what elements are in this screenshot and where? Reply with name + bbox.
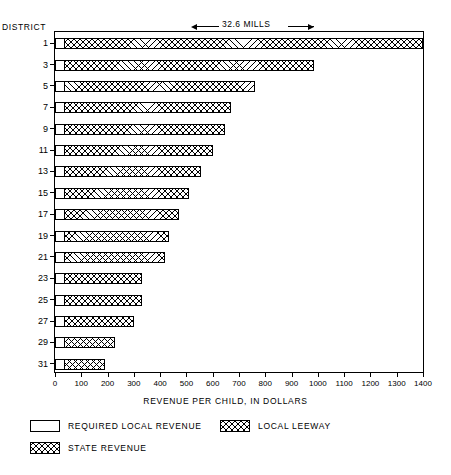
- bar-segment-local-leeway: [64, 360, 104, 369]
- legend-row-2: STATE REVENUE: [30, 442, 430, 464]
- bar-district-17: [55, 209, 179, 220]
- mills-arrow-left-icon: [191, 24, 197, 30]
- bar-segment-required-local-revenue: [56, 189, 64, 198]
- bar-segment-local-leeway: [64, 338, 115, 347]
- y-tick-label-1: 1: [24, 38, 48, 48]
- chart-root: DISTRICT 32.6 MILLS 13579111315171921232…: [0, 0, 451, 475]
- y-tick-mark-13: [50, 171, 54, 172]
- x-tick-mark-100: [81, 373, 82, 377]
- x-tick-mark-600: [213, 373, 214, 377]
- y-tick-mark-31: [50, 363, 54, 364]
- mills-arrow-right-icon: [308, 24, 314, 30]
- bar-segment-required-local-revenue: [56, 39, 64, 48]
- y-axis-title: DISTRICT: [2, 22, 46, 32]
- x-axis-title: REVENUE PER CHILD, IN DOLLARS: [0, 396, 451, 406]
- y-tick-label-19: 19: [24, 231, 48, 241]
- bar-segment-local-leeway: [64, 253, 165, 262]
- bar-segment-required-local-revenue: [56, 61, 64, 70]
- x-tick-mark-1100: [344, 373, 345, 377]
- x-tick-mark-1400: [423, 373, 424, 377]
- bar-district-31: [55, 359, 105, 370]
- y-tick-label-29: 29: [24, 337, 48, 347]
- bar-district-25: [55, 295, 142, 306]
- y-tick-mark-5: [50, 85, 54, 86]
- bar-segment-required-local-revenue: [56, 125, 64, 134]
- bar-segment-local-leeway: [64, 125, 224, 134]
- bar-district-11: [55, 145, 213, 156]
- bar-district-21: [55, 252, 165, 263]
- x-tick-mark-300: [134, 373, 135, 377]
- x-tick-mark-800: [265, 373, 266, 377]
- bar-segment-local-leeway: [64, 39, 422, 48]
- x-tick-mark-900: [292, 373, 293, 377]
- bar-segment-required-local-revenue: [56, 82, 64, 91]
- bar-district-9: [55, 124, 225, 135]
- x-tick-mark-400: [160, 373, 161, 377]
- y-tick-mark-3: [50, 64, 54, 65]
- y-tick-mark-25: [50, 299, 54, 300]
- y-tick-label-21: 21: [24, 252, 48, 262]
- bar-segment-local-leeway: [64, 274, 141, 283]
- legend-swatch-required-local-revenue: [30, 420, 60, 432]
- y-tick-mark-29: [50, 342, 54, 343]
- bar-segment-required-local-revenue: [56, 360, 64, 369]
- y-tick-label-3: 3: [24, 60, 48, 70]
- bar-segment-required-local-revenue: [56, 253, 64, 262]
- bar-segment-local-leeway: [64, 146, 212, 155]
- bar-segment-required-local-revenue: [56, 274, 64, 283]
- x-tick-mark-500: [186, 373, 187, 377]
- x-tick-mark-0: [55, 373, 56, 377]
- y-tick-mark-15: [50, 192, 54, 193]
- legend-swatch-state-revenue: [30, 442, 60, 454]
- y-tick-mark-23: [50, 278, 54, 279]
- y-tick-mark-1: [50, 43, 54, 44]
- legend-swatch-local-leeway: [220, 420, 250, 432]
- bar-district-15: [55, 188, 189, 199]
- bar-district-13: [55, 166, 201, 177]
- bar-segment-local-leeway: [64, 167, 200, 176]
- x-tick-label-1400: 1400: [408, 379, 438, 388]
- y-tick-label-15: 15: [24, 188, 48, 198]
- bar-segment-required-local-revenue: [56, 317, 64, 326]
- bar-segment-required-local-revenue: [56, 232, 64, 241]
- y-tick-label-31: 31: [24, 359, 48, 369]
- legend: REQUIRED LOCAL REVENUE LOCAL LEEWAY STAT…: [30, 420, 430, 464]
- bars-container: [55, 32, 423, 372]
- legend-row-1: REQUIRED LOCAL REVENUE LOCAL LEEWAY: [30, 420, 430, 442]
- y-tick-mark-21: [50, 256, 54, 257]
- bar-segment-local-leeway: [64, 103, 230, 112]
- bar-district-27: [55, 316, 134, 327]
- bar-district-23: [55, 273, 142, 284]
- bar-district-29: [55, 337, 115, 348]
- y-tick-mark-9: [50, 128, 54, 129]
- x-tick-mark-200: [108, 373, 109, 377]
- bar-segment-local-leeway: [64, 82, 254, 91]
- bar-segment-required-local-revenue: [56, 338, 64, 347]
- legend-item-state-revenue: STATE REVENUE: [30, 442, 147, 454]
- bar-segment-local-leeway: [64, 232, 168, 241]
- x-tick-mark-700: [239, 373, 240, 377]
- legend-label-required-local-revenue: REQUIRED LOCAL REVENUE: [68, 421, 202, 431]
- y-tick-label-9: 9: [24, 124, 48, 134]
- y-tick-mark-11: [50, 150, 54, 151]
- y-tick-label-11: 11: [24, 145, 48, 155]
- bar-district-3: [55, 60, 314, 71]
- bar-segment-local-leeway: [64, 296, 141, 305]
- bar-segment-required-local-revenue: [56, 210, 64, 219]
- bar-district-1: [55, 38, 423, 49]
- bar-district-5: [55, 81, 255, 92]
- y-tick-label-17: 17: [24, 209, 48, 219]
- bar-segment-local-leeway: [64, 210, 178, 219]
- bar-district-7: [55, 102, 231, 113]
- bar-segment-local-leeway: [64, 189, 188, 198]
- y-tick-mark-7: [50, 107, 54, 108]
- y-tick-mark-17: [50, 214, 54, 215]
- bar-segment-local-leeway: [64, 61, 313, 70]
- y-tick-label-7: 7: [24, 102, 48, 112]
- plot-area: [54, 31, 424, 373]
- legend-label-local-leeway: LOCAL LEEWAY: [258, 421, 331, 431]
- bar-segment-required-local-revenue: [56, 296, 64, 305]
- y-tick-mark-27: [50, 321, 54, 322]
- y-tick-mark-19: [50, 235, 54, 236]
- bar-segment-required-local-revenue: [56, 103, 64, 112]
